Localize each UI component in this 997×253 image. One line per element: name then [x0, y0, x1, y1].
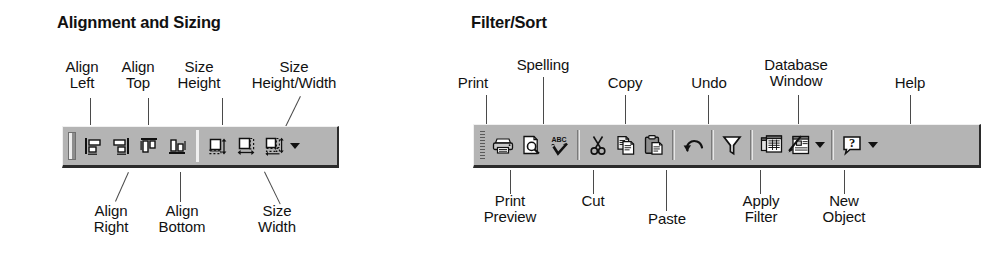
callout-size-width-line2: Width	[244, 219, 310, 235]
callout-align-left-line2: Left	[56, 75, 108, 91]
callout-size-height-line2: Height	[166, 75, 232, 91]
callout-align-top: Align Top	[112, 59, 164, 91]
callout-print: Print	[450, 75, 496, 91]
toolbar-overflow-chevron-down-icon[interactable]	[866, 130, 880, 160]
leader-size-width	[264, 172, 281, 205]
leader-align-left	[90, 98, 91, 125]
leader-print	[486, 95, 487, 124]
toolbar-filter-sort[interactable]: ABC	[473, 124, 981, 168]
callout-cut: Cut	[570, 193, 616, 209]
help-icon[interactable]: ?	[838, 130, 866, 160]
align-bottom-icon[interactable]	[163, 131, 191, 161]
toolbar-separator	[196, 130, 199, 162]
callout-database-window-line2: Window	[752, 73, 840, 89]
callout-paste: Paste	[641, 211, 693, 227]
callout-align-bottom-line2: Bottom	[148, 219, 216, 235]
align-right-icon[interactable]	[107, 131, 135, 161]
size-height-icon[interactable]	[204, 131, 232, 161]
leader-align-right	[115, 172, 129, 202]
toolbar-separator	[831, 130, 834, 160]
callout-align-bottom: Align Bottom	[148, 203, 216, 235]
callout-align-right-line1: Align	[80, 203, 142, 219]
toolbar-separator	[711, 130, 714, 160]
toolbar-grip-handle[interactable]	[480, 131, 485, 159]
callout-align-right-line2: Right	[80, 219, 142, 235]
panel-title-alignment-and-sizing: Alignment and Sizing	[57, 13, 221, 32]
callout-size-width-line1: Size	[244, 203, 310, 219]
toolbar-separator	[577, 130, 580, 160]
callout-size-height-line1: Size	[166, 59, 232, 75]
toolbar-overflow-chevron-down-icon[interactable]	[288, 131, 302, 161]
panel-filter-sort: Filter/Sort Print Spelling Copy Undo Dat…	[430, 0, 997, 253]
callout-spelling-line1: Spelling	[508, 57, 578, 73]
undo-icon[interactable]	[679, 130, 707, 160]
callout-apply-filter: Apply Filter	[732, 193, 790, 225]
callout-apply-filter-line1: Apply	[732, 193, 790, 209]
align-left-icon[interactable]	[79, 131, 107, 161]
callout-database-window-line1: Database	[752, 57, 840, 73]
toolbar-separator	[750, 130, 753, 160]
leader-spelling	[543, 77, 544, 124]
callout-database-window: Database Window	[752, 57, 840, 89]
size-width-icon[interactable]	[232, 131, 260, 161]
leader-undo	[708, 95, 709, 124]
new-object-icon[interactable]	[785, 130, 813, 160]
callout-align-left: Align Left	[56, 59, 108, 91]
callout-help-line1: Help	[888, 75, 932, 91]
apply-filter-icon[interactable]	[718, 130, 746, 160]
callout-copy-line1: Copy	[600, 75, 650, 91]
leader-paste	[666, 170, 667, 211]
callout-paste-line1: Paste	[641, 211, 693, 227]
toolbar-alignment-and-sizing[interactable]	[62, 126, 339, 168]
callout-align-left-line1: Align	[56, 59, 108, 75]
leader-copy	[625, 95, 626, 124]
panel-title-filter-sort: Filter/Sort	[471, 13, 547, 32]
callout-align-top-line2: Top	[112, 75, 164, 91]
leader-size-height	[222, 98, 223, 125]
leader-print-preview	[510, 170, 511, 194]
leader-cut	[593, 170, 594, 194]
leader-align-bottom	[180, 172, 181, 202]
leader-database-window	[798, 95, 799, 124]
callout-new-object: New Object	[812, 193, 876, 225]
callout-undo-line1: Undo	[683, 75, 735, 91]
spelling-icon[interactable]: ABC	[545, 130, 573, 160]
callout-help: Help	[888, 75, 932, 91]
new-object-chevron-down-icon[interactable]	[813, 130, 827, 160]
callout-print-line1: Print	[450, 75, 496, 91]
callout-size-height-width-line1: Size	[235, 59, 353, 75]
callout-size-height: Size Height	[166, 59, 232, 91]
callout-print-preview: Print Preview	[472, 193, 548, 225]
leader-help	[910, 95, 911, 124]
callout-copy: Copy	[600, 75, 650, 91]
paste-icon[interactable]	[640, 130, 668, 160]
toolbar-separator	[672, 130, 675, 160]
leader-new-object	[844, 170, 845, 194]
size-height-width-icon[interactable]	[260, 131, 288, 161]
leader-apply-filter	[760, 170, 761, 194]
callout-size-height-width-line2: Height/Width	[235, 75, 353, 91]
callout-print-preview-line1: Print	[472, 193, 548, 209]
align-top-icon[interactable]	[135, 131, 163, 161]
cut-icon[interactable]	[584, 130, 612, 160]
callout-new-object-line1: New	[812, 193, 876, 209]
panel-alignment-and-sizing: Alignment and Sizing Align Left Align To…	[0, 0, 430, 253]
callout-spelling: Spelling	[508, 57, 578, 73]
toolbar-grip-handle[interactable]	[68, 132, 76, 160]
callout-size-width: Size Width	[244, 203, 310, 235]
print-icon[interactable]	[489, 130, 517, 160]
leader-size-height-width	[284, 96, 301, 129]
callout-size-height-width: Size Height/Width	[235, 59, 353, 91]
callout-new-object-line2: Object	[812, 209, 876, 225]
svg-text:ABC: ABC	[551, 136, 566, 143]
database-window-icon[interactable]	[757, 130, 785, 160]
callout-cut-line1: Cut	[570, 193, 616, 209]
callout-print-preview-line2: Preview	[472, 209, 548, 225]
leader-align-top	[148, 98, 149, 125]
callout-align-top-line1: Align	[112, 59, 164, 75]
callout-align-right: Align Right	[80, 203, 142, 235]
callout-undo: Undo	[683, 75, 735, 91]
svg-text:?: ?	[849, 136, 855, 150]
print-preview-icon[interactable]	[517, 130, 545, 160]
copy-icon[interactable]	[612, 130, 640, 160]
